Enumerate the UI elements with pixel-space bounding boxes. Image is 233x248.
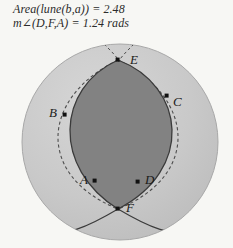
measurement-readout: Area(lune(b,a)) = 2.48 m∠(D,F,A) = 1.24 … <box>13 3 129 30</box>
angle-measure: m∠(D,F,A) = 1.24 rads <box>13 17 129 31</box>
point-label-A: A <box>80 173 88 186</box>
geometry-figure-screenshot: Area(lune(b,a)) = 2.48 m∠(D,F,A) = 1.24 … <box>0 0 233 248</box>
lune-area-measure: Area(lune(b,a)) = 2.48 <box>13 3 129 17</box>
sphere-lune-figure <box>0 0 233 248</box>
point-label-E: E <box>130 53 138 66</box>
point-marker-D[interactable] <box>136 180 140 184</box>
point-label-F: F <box>126 201 134 214</box>
point-label-D: D <box>145 173 154 186</box>
point-marker-B[interactable] <box>63 113 67 117</box>
point-marker-E[interactable] <box>116 58 120 62</box>
point-marker-F[interactable] <box>116 207 120 211</box>
point-marker-C[interactable] <box>165 94 169 98</box>
point-marker-A[interactable] <box>93 179 97 183</box>
point-label-B: B <box>49 106 57 119</box>
point-label-C: C <box>173 95 182 108</box>
